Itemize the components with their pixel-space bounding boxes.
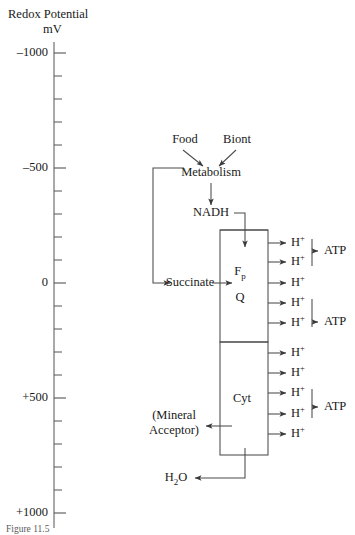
arrow-metabolism-to-succinate — [153, 168, 184, 283]
complex-box-group — [220, 230, 268, 455]
y-axis-group — [54, 42, 66, 528]
complex-box-upper — [220, 230, 268, 342]
figure-root: Redox Potential mV –1000 –500 0 +500 +10… — [0, 0, 355, 535]
flow-arrows-group — [153, 150, 245, 478]
arrow-biont-to-metabolism — [219, 150, 236, 166]
arrow-food-to-metabolism — [183, 150, 203, 166]
atp-group — [312, 239, 318, 418]
complex-box-lower — [220, 342, 268, 455]
diagram-vector-layer — [0, 0, 355, 535]
proton-arrows-group — [268, 243, 286, 434]
